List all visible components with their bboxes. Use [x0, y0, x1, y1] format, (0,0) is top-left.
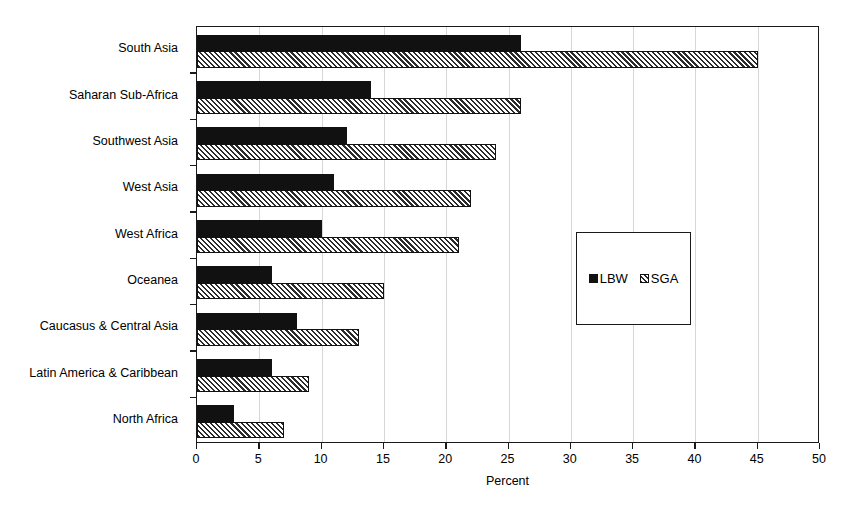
bar-sga: [197, 283, 384, 300]
value-tick: [258, 443, 259, 449]
value-tick-label: 20: [425, 452, 465, 466]
plot-area: [196, 26, 819, 443]
category-tick: [190, 350, 196, 351]
category-label: Saharan Sub-Africa: [0, 89, 186, 102]
category-tick: [190, 72, 196, 73]
category-label: Latin America & Caribbean: [0, 367, 186, 380]
legend: LBW SGA: [576, 232, 691, 325]
bar-sga: [197, 422, 284, 439]
value-tick-label: 35: [612, 452, 652, 466]
value-tick-label: 40: [674, 452, 714, 466]
value-tick: [508, 443, 509, 449]
value-tick-label: 0: [176, 452, 216, 466]
bar-lbw: [197, 81, 371, 98]
x-axis-title: Percent: [196, 474, 819, 488]
gridline: [509, 27, 510, 442]
value-tick: [757, 443, 758, 449]
value-tick-label: 10: [301, 452, 341, 466]
bar-sga: [197, 51, 758, 68]
bar-sga: [197, 190, 471, 207]
value-tick: [819, 443, 820, 449]
bar-sga: [197, 237, 459, 254]
bar-lbw: [197, 266, 272, 283]
bar-lbw: [197, 127, 347, 144]
category-label: West Africa: [0, 228, 186, 241]
category-tick: [190, 211, 196, 212]
category-label: Caucasus & Central Asia: [0, 320, 186, 333]
value-tick: [632, 443, 633, 449]
category-tick: [190, 258, 196, 259]
bar-lbw: [197, 174, 334, 191]
category-label: Southwest Asia: [0, 135, 186, 148]
gridline: [758, 27, 759, 442]
bar-sga: [197, 376, 309, 393]
value-tick: [570, 443, 571, 449]
legend-item-sga: SGA: [640, 272, 678, 285]
category-tick: [190, 304, 196, 305]
value-tick-label: 45: [737, 452, 777, 466]
value-tick-label: 25: [488, 452, 528, 466]
gridline: [571, 27, 572, 442]
hatched-square-icon: [640, 274, 649, 283]
legend-label-sga: SGA: [651, 272, 678, 285]
value-tick: [196, 443, 197, 449]
value-tick: [321, 443, 322, 449]
category-label: North Africa: [0, 413, 186, 426]
category-axis-labels: South AsiaSaharan Sub-AfricaSouthwest As…: [0, 26, 186, 443]
bar-lbw: [197, 35, 521, 52]
value-tick: [694, 443, 695, 449]
category-label: Oceanea: [0, 274, 186, 287]
value-tick: [383, 443, 384, 449]
gridline: [446, 27, 447, 442]
category-tick: [190, 165, 196, 166]
gridline: [695, 27, 696, 442]
category-tick: [190, 119, 196, 120]
value-tick-label: 5: [238, 452, 278, 466]
value-tick-label: 15: [363, 452, 403, 466]
legend-item-lbw: LBW: [589, 272, 628, 285]
value-tick: [445, 443, 446, 449]
bar-lbw: [197, 220, 322, 237]
category-label: South Asia: [0, 42, 186, 55]
bar-chart: South AsiaSaharan Sub-AfricaSouthwest As…: [0, 0, 853, 513]
bar-lbw: [197, 359, 272, 376]
legend-label-lbw: LBW: [600, 272, 628, 285]
gridline: [384, 27, 385, 442]
bar-lbw: [197, 405, 234, 422]
category-label: West Asia: [0, 181, 186, 194]
bar-sga: [197, 144, 496, 161]
bar-sga: [197, 98, 521, 115]
solid-square-icon: [589, 274, 598, 283]
bar-sga: [197, 329, 359, 346]
value-tick-label: 30: [550, 452, 590, 466]
bar-lbw: [197, 313, 297, 330]
category-tick: [190, 397, 196, 398]
value-tick-label: 50: [799, 452, 839, 466]
